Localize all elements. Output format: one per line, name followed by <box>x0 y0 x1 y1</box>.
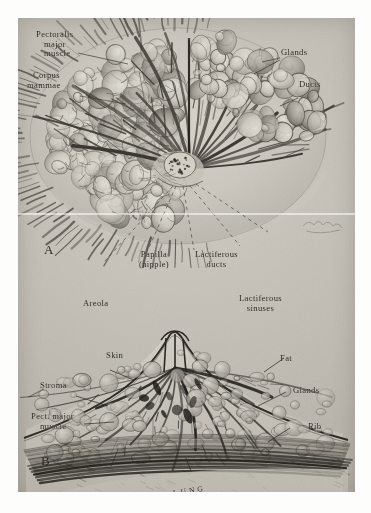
label-areola: Areola <box>83 299 108 309</box>
label-ducts-a: Ducts <box>299 80 321 90</box>
label-corpus-mammae: Corpus mammae <box>27 71 61 90</box>
label-fat: Fat <box>280 354 292 364</box>
label-stroma: Stroma <box>40 381 67 391</box>
label-pectoralis-major-muscle: Pectoralis major muscle <box>36 30 73 59</box>
label-papilla-nipple: Papilla (nipple) <box>139 250 169 269</box>
label-pect-major-muscle: Pect. major muscle <box>31 412 74 431</box>
figure-b-drawing <box>18 310 355 492</box>
figure-marker-b: B <box>41 453 50 469</box>
anatomical-plate: Pectoralis major muscle Corpus mammae Gl… <box>18 18 355 492</box>
label-line: muscle <box>31 422 74 432</box>
label-line: (nipple) <box>139 260 169 270</box>
label-lactiferous-ducts: Lactiferous ducts <box>195 250 238 269</box>
label-line: mammae <box>27 81 61 91</box>
illustration-page: Pectoralis major muscle Corpus mammae Gl… <box>0 0 371 513</box>
papilla-drawing <box>152 151 204 189</box>
label-line: ducts <box>195 260 238 270</box>
label-glands-b: Glands <box>293 386 319 396</box>
figure-marker-a: A <box>44 242 54 258</box>
label-rib: Rib <box>308 422 321 432</box>
label-line: muscle <box>36 49 73 59</box>
label-skin: Skin <box>106 351 123 361</box>
label-glands-a: Glands <box>281 48 307 58</box>
